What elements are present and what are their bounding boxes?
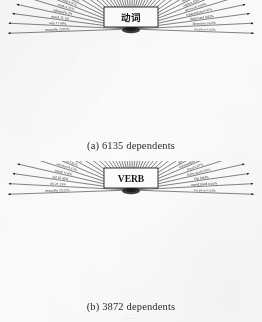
svg-text:vocative 0.02%: vocative 0.02% <box>194 27 216 32</box>
center-node-label-b: VERB <box>118 174 145 184</box>
svg-text:comp:obj 26.25%: comp:obj 26.25% <box>45 188 70 193</box>
svg-text:vocative 0.03%: vocative 0.03% <box>194 188 216 193</box>
figure-page: comp:obj 29.83%vocative 0.02%subj 17.98%… <box>0 0 262 322</box>
radial-fan-svg-a: comp:obj 29.83%vocative 0.02%subj 17.98%… <box>0 0 262 138</box>
fan-diagram-b: comp:obj 26.25%vocative 0.03%obj 21.33%n… <box>0 161 262 299</box>
page-bottom-cutoff-text: …… <box>0 312 262 322</box>
fan-diagram-a: comp:obj 29.83%vocative 0.02%subj 17.98%… <box>0 0 262 138</box>
svg-text:subj 17.98%: subj 17.98% <box>49 21 67 26</box>
svg-text:comp:obj 29.83%: comp:obj 29.83% <box>45 27 70 32</box>
radial-fan-svg-b: comp:obj 26.25%vocative 0.03%obj 21.33%n… <box>0 161 262 299</box>
panel-caption-b: (b) 3872 dependents <box>0 301 262 312</box>
svg-text:obj 21.33%: obj 21.33% <box>50 182 66 187</box>
panel-b: comp:obj 26.25%vocative 0.03%obj 21.33%n… <box>0 161 262 322</box>
center-node-label-a: 动词 <box>121 12 141 23</box>
panel-a: comp:obj 29.83%vocative 0.02%subj 17.98%… <box>0 0 262 161</box>
panel-caption-a: (a) 6135 dependents <box>0 140 262 151</box>
